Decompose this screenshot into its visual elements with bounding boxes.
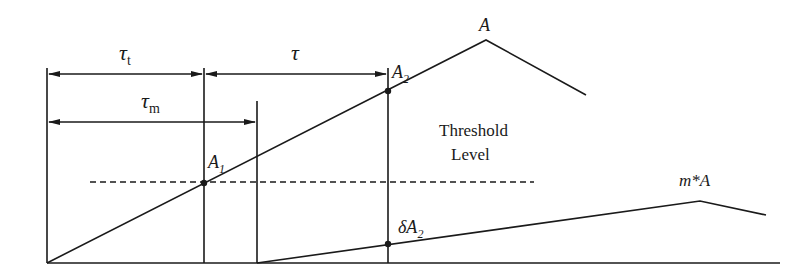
pulse-threshold-diagram: τt τ τm A A2 A1 Threshold Level δA2 m*A [0,0,812,275]
A2-label: A2 [391,62,409,86]
threshold-label-line2: Level [451,145,490,164]
delta-A2-point-marker [385,241,391,247]
attenuated-pulse-curve [257,201,766,263]
threshold-label-line1: Threshold [439,121,508,140]
delta-A2-label: δA2 [398,217,423,241]
m-times-A-label: m*A [679,171,711,190]
tau-m-label: τm [141,88,160,116]
A2-point-marker [385,88,391,94]
tau-label: τ [291,40,300,65]
A1-label: A1 [207,152,225,176]
A1-point-marker [201,180,207,186]
peak-A-label: A [478,15,491,35]
tau-t-label: τt [119,40,131,68]
